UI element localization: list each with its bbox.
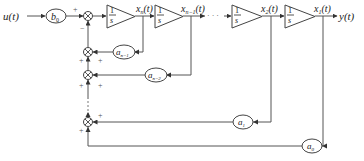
state-label-xn-1: xn−1(t)	[180, 3, 206, 15]
svg-text:1: 1	[158, 6, 162, 15]
sign-plus: +	[79, 126, 84, 135]
arrow-head	[253, 120, 258, 125]
block-diagram: u(t) b0 + − 1 s xn(t) 1 s xn−1(t) · · · …	[0, 0, 364, 161]
gain-a-n-1: an−1	[113, 45, 135, 59]
arrow-head	[86, 127, 91, 132]
svg-text:s: s	[110, 16, 113, 25]
feedback-x1-line	[322, 16, 323, 146]
sign-plus: +	[98, 56, 103, 65]
output-label: y(t)	[338, 10, 355, 23]
summing-junction-2	[84, 48, 93, 57]
a0-to-sum4-line	[88, 127, 302, 146]
state-label-xn: xn(t)	[135, 3, 154, 15]
feedback-x2-line	[253, 16, 271, 122]
gain-b0: b0	[46, 9, 66, 23]
integrator-1: 1 s	[107, 5, 135, 28]
integrator-2: 1 s	[155, 5, 183, 28]
gain-a1: a1	[233, 115, 253, 129]
state-label-x2: x2(t)	[260, 3, 279, 15]
feedback-xn-line	[134, 16, 143, 52]
integrator-4: 1 s	[285, 5, 315, 28]
svg-text:1: 1	[288, 6, 292, 15]
summing-junction-4	[84, 118, 93, 127]
arrow-head	[86, 112, 91, 117]
summing-junction-3	[84, 71, 93, 80]
svg-text:s: s	[288, 16, 291, 25]
gain-a-n-2: an−2	[145, 68, 167, 82]
svg-text:1: 1	[110, 6, 114, 15]
vertical-ellipsis	[87, 80, 88, 111]
sign-plus: +	[79, 56, 84, 65]
feedback-xn-1-line	[166, 16, 191, 75]
integrator-3: 1 s	[232, 5, 262, 28]
svg-text:s: s	[235, 16, 238, 25]
sign-plus: +	[79, 81, 84, 90]
sign-minus: −	[80, 24, 85, 33]
svg-text:1: 1	[235, 6, 239, 15]
sign-plus: +	[73, 5, 78, 14]
state-label-x1: x1(t)	[313, 3, 332, 15]
arrow-head	[200, 14, 205, 19]
sign-plus: +	[98, 81, 103, 90]
input-label: u(t)	[3, 10, 19, 23]
sign-plus: +	[98, 111, 103, 120]
gain-a0: a0	[302, 139, 322, 153]
svg-text:s: s	[158, 16, 161, 25]
ellipsis: · · ·	[207, 11, 219, 20]
summing-junction-main	[84, 12, 93, 21]
